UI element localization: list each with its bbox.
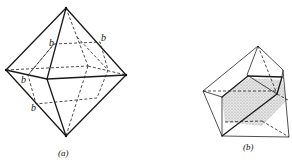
edge-label-b: b (49, 37, 54, 48)
edge (283, 70, 289, 137)
edge-label-b: b (21, 74, 26, 85)
edge-label-b: b (101, 32, 106, 43)
vertex-dot (65, 7, 67, 9)
figure-b-polyhedron: (b) (203, 46, 289, 152)
cross-section-outline (28, 42, 108, 104)
vertex-dot (125, 74, 127, 76)
edge-front-right (47, 75, 126, 79)
edge (203, 91, 222, 97)
edge-right-bottom (66, 75, 126, 136)
diagram-canvas: b b b b (a) (b) (0, 0, 292, 162)
vertex-dot (5, 69, 7, 71)
edge-top-right (66, 8, 126, 75)
edge-top-left (6, 8, 66, 70)
edge-front-bottom (47, 79, 66, 136)
edge (248, 76, 282, 77)
shaded-plane (222, 78, 287, 126)
figure-b-caption: (b) (243, 142, 254, 152)
hidden-edge (262, 121, 289, 137)
vertex-dot (65, 135, 67, 137)
edge-label-b: b (31, 102, 36, 113)
figure-a-caption: (a) (58, 148, 69, 158)
edge (258, 46, 283, 70)
figure-a-octahedron: b b b b (a) (5, 7, 127, 158)
edge (222, 136, 289, 137)
hidden-edge-left-back (6, 66, 88, 70)
edge (203, 91, 222, 136)
